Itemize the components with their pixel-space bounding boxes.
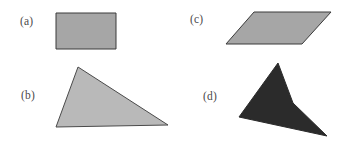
shape-rectangle-a (56, 13, 116, 49)
shape-label-c: (c) (190, 14, 203, 26)
shape-triangle-b (56, 67, 168, 127)
shape-label-d: (d) (203, 91, 217, 103)
shape-parallelogram-c (226, 12, 331, 44)
shapes-figure: (a) (b) (c) (d) (0, 0, 343, 145)
shape-label-b: (b) (21, 90, 35, 102)
shape-label-a: (a) (20, 16, 33, 28)
shape-concave-dart-d (239, 63, 327, 136)
shapes-canvas (0, 0, 343, 145)
